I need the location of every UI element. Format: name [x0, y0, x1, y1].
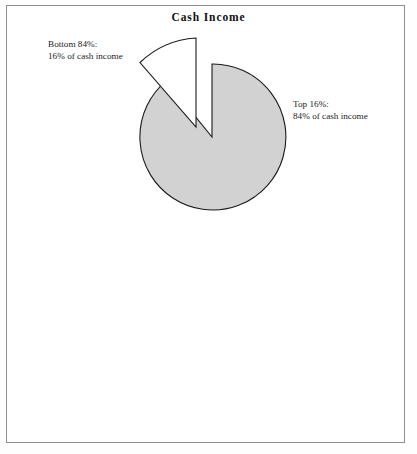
- annotation-cash-top-16: Top 16%: 84% of cash income: [293, 98, 368, 123]
- annotation-line-2: 16% of cash income: [48, 50, 123, 62]
- figure-canvas: Cash Income Bottom 84%: 16% of cash inco…: [0, 0, 417, 454]
- annotation-line-1: Bottom 84%:: [48, 39, 97, 49]
- chart-panel-purchasing-power-parity: Purchasing Power Parity Bottom 75%: 25% …: [0, 232, 417, 454]
- chart-title-cash-income: Cash Income: [0, 11, 417, 23]
- chart-panel-cash-income: Cash Income Bottom 84%: 16% of cash inco…: [0, 0, 417, 232]
- pie-chart-cash-income: [120, 28, 300, 208]
- annotation-line-2: 84% of cash income: [293, 110, 368, 122]
- annotation-line-1: Top 16%:: [293, 99, 329, 109]
- annotation-cash-bottom-84: Bottom 84%: 16% of cash income: [48, 38, 123, 63]
